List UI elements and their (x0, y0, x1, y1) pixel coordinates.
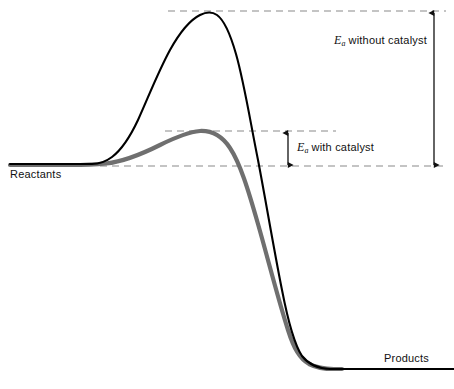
ea-without-catalyst-text: without catalyst (349, 34, 427, 46)
ea-symbol-with: E (297, 140, 305, 154)
energy-profile-svg (0, 0, 454, 389)
energy-profile-diagram: Reactants Products Eawithout catalyst Ea… (0, 0, 454, 389)
ea-without-catalyst-label: Eawithout catalyst (334, 33, 427, 48)
ea-with-catalyst-label: Eawith catalyst (297, 140, 374, 155)
ea-subscript-with: a (305, 146, 309, 155)
ea-with-catalyst-text: with catalyst (312, 141, 375, 153)
reactants-label: Reactants (10, 168, 61, 180)
uncatalyzed-pathway-curve (10, 13, 454, 369)
ea-symbol-without: E (334, 33, 342, 47)
products-label: Products (384, 352, 429, 364)
ea-subscript-without: a (342, 39, 346, 48)
